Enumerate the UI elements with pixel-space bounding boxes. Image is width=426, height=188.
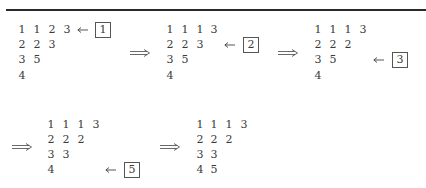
insert-box: 5 [124, 162, 140, 178]
cell: 1 [195, 118, 205, 132]
cell: 1 [32, 23, 42, 37]
double-arrow-icon [278, 49, 298, 57]
cell: 1 [328, 23, 338, 37]
cell: 3 [358, 23, 368, 37]
cell: 2 [209, 133, 219, 147]
cell: 1 [180, 23, 190, 37]
cell: 5 [209, 163, 219, 177]
cell: 1 [76, 118, 86, 132]
cell: 1 [224, 118, 234, 132]
cell: 2 [343, 38, 353, 52]
cell: 1 [165, 23, 175, 37]
left-arrow-icon [373, 57, 384, 63]
double-arrow-icon [160, 143, 180, 151]
cell: 1 [313, 23, 323, 37]
cell: 4 [17, 69, 27, 83]
cell: 1 [343, 23, 353, 37]
cell: 5 [32, 53, 42, 67]
cell: 2 [76, 133, 86, 147]
cell: 4 [46, 163, 56, 177]
cell: 3 [91, 118, 101, 132]
cell: 3 [46, 148, 56, 162]
cell: 2 [17, 38, 27, 52]
cell: 1 [17, 23, 27, 37]
cell: 4 [165, 69, 175, 83]
cell: 2 [328, 38, 338, 52]
cell: 3 [195, 148, 205, 162]
insert-box: 3 [392, 52, 408, 68]
cell: 2 [46, 133, 56, 147]
double-arrow-icon [12, 143, 32, 151]
cell: 1 [61, 118, 71, 132]
cell: 2 [61, 133, 71, 147]
cell: 2 [165, 38, 175, 52]
cell: 2 [195, 133, 205, 147]
cell: 5 [328, 53, 338, 67]
cell: 3 [165, 53, 175, 67]
cell: 2 [313, 38, 323, 52]
cell: 1 [195, 23, 205, 37]
cell: 3 [62, 23, 72, 37]
cell: 4 [195, 163, 205, 177]
cell: 3 [47, 38, 57, 52]
cell: 3 [61, 148, 71, 162]
left-arrow-icon [105, 167, 116, 173]
cell: 2 [224, 133, 234, 147]
cell: 3 [209, 23, 219, 37]
cell: 1 [209, 118, 219, 132]
insert-box: 2 [243, 37, 259, 53]
left-arrow-icon [77, 27, 88, 33]
double-arrow-icon [130, 49, 150, 57]
cell: 3 [209, 148, 219, 162]
cell: 2 [47, 23, 57, 37]
cell: 4 [313, 69, 323, 83]
cell: 2 [32, 38, 42, 52]
cell: 5 [180, 53, 190, 67]
cell: 1 [46, 118, 56, 132]
cell: 3 [195, 38, 205, 52]
cell: 3 [17, 53, 27, 67]
cell: 3 [239, 118, 249, 132]
left-arrow-icon [224, 42, 235, 48]
top-rule [6, 9, 426, 11]
insert-box: 1 [95, 22, 111, 38]
cell: 3 [313, 53, 323, 67]
cell: 2 [180, 38, 190, 52]
